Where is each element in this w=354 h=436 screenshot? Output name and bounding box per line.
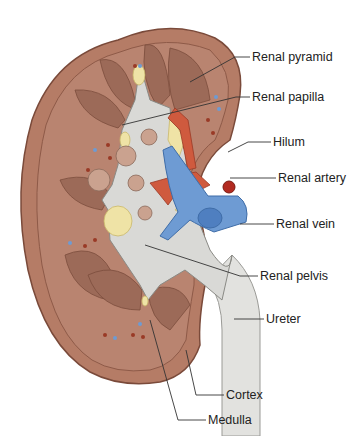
label-renal-artery: Renal artery — [278, 171, 346, 185]
label-renal-papilla: Renal papilla — [252, 90, 324, 104]
label-ureter: Ureter — [266, 312, 301, 326]
label-hilum: Hilum — [273, 135, 305, 149]
label-renal-pelvis: Renal pelvis — [260, 269, 328, 283]
label-cortex: Cortex — [226, 388, 263, 402]
renal-artery-dot — [223, 181, 235, 193]
label-renal-pyramid: Renal pyramid — [252, 50, 333, 64]
label-renal-vein: Renal vein — [276, 217, 335, 231]
renal-vein-opening — [198, 208, 222, 228]
label-medulla: Medulla — [208, 413, 252, 427]
